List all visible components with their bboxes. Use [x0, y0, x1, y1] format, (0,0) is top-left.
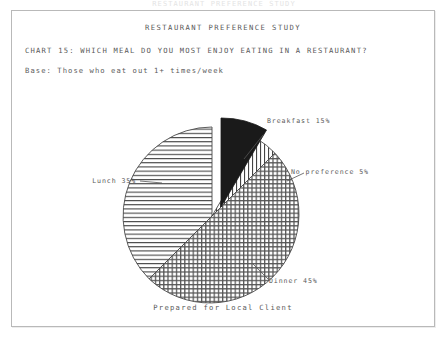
footer-note: Prepared for Local Client — [12, 303, 434, 312]
pie-slice-no-preference — [212, 139, 275, 216]
chart-question: CHART 15: WHICH MEAL DO YOU MOST ENJOY E… — [25, 46, 368, 55]
pie-label-lunch: Lunch 35% — [92, 177, 136, 185]
pie-label-no-preference: No preference 5% — [291, 168, 369, 176]
page-frame: RESTAURANT PREFERENCE STUDY CHART 15: WH… — [11, 10, 435, 327]
pie-label-breakfast: Breakfast 15% — [267, 117, 330, 125]
leader-line-no-preference — [287, 173, 304, 181]
leader-line-lunch — [140, 181, 162, 183]
pie-slice-lunch — [123, 127, 212, 279]
base-description: Base: Those who eat out 1+ times/week — [25, 66, 224, 75]
pie-chart: Breakfast 15% No preference 5% Lunch 35%… — [12, 11, 436, 328]
page-title: RESTAURANT PREFERENCE STUDY — [12, 23, 434, 32]
chart-page: RESTAURANT PREFERENCE STUDY RESTAURANT P… — [0, 0, 448, 341]
pie-label-dinner: Dinner 45% — [269, 277, 318, 285]
pie-slice-dinner — [149, 153, 299, 303]
leader-line-breakfast — [244, 135, 263, 159]
pie-slice-breakfast — [221, 118, 267, 207]
top-bleed-text: RESTAURANT PREFERENCE STUDY — [0, 0, 448, 6]
leader-line-dinner — [252, 263, 268, 279]
